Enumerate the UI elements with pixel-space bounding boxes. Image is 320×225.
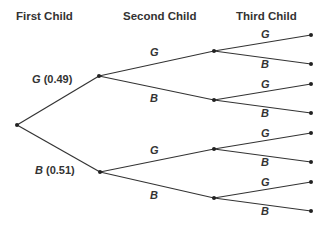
label-second-gb: B [150, 92, 158, 104]
label-third-bgb: B [261, 156, 269, 168]
label-second-gg: G [150, 46, 159, 58]
label-second-bb: B [150, 189, 158, 201]
label-first-g: G (0.49) [32, 73, 72, 85]
label-first-b: B (0.51) [35, 164, 75, 176]
label-third-ggb: B [261, 58, 269, 70]
label-third-ggg: G [261, 28, 270, 40]
label-third-bbb: B [261, 205, 269, 217]
label-third-gbb: B [261, 107, 269, 119]
probability-tree [0, 0, 320, 225]
label-third-bbg: G [261, 176, 270, 188]
label-first-b-prob: (0.51) [46, 164, 75, 176]
label-third-gbg: G [261, 78, 270, 90]
label-first-g-letter: G [32, 73, 41, 85]
label-third-bgg: G [261, 127, 270, 139]
label-first-b-letter: B [35, 164, 43, 176]
label-second-bg: G [150, 144, 159, 156]
label-first-g-prob: (0.49) [44, 73, 73, 85]
